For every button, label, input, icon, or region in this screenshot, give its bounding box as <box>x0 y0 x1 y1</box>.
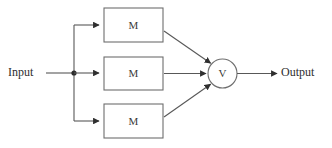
block-top-label: M <box>129 19 139 31</box>
output-group: Output <box>237 65 315 79</box>
block-middle-label: M <box>129 67 139 79</box>
combiner-label: V <box>219 67 227 79</box>
block-middle[interactable]: M <box>104 57 163 90</box>
diagram-canvas: Input M M M <box>0 0 332 148</box>
block-bottom[interactable]: M <box>104 104 163 138</box>
input-label: Input <box>8 65 34 79</box>
block-diagram: Input M M M <box>0 0 332 148</box>
block-bottom-label: M <box>129 115 139 127</box>
combiner-node[interactable]: V <box>208 59 237 88</box>
branch-wires-group <box>74 25 99 121</box>
combine-wire-bottom <box>164 84 211 117</box>
combine-wire-top <box>164 31 211 63</box>
combine-wires-group <box>164 31 211 117</box>
input-group: Input <box>8 65 74 79</box>
block-top[interactable]: M <box>104 8 163 42</box>
output-label: Output <box>281 65 315 79</box>
